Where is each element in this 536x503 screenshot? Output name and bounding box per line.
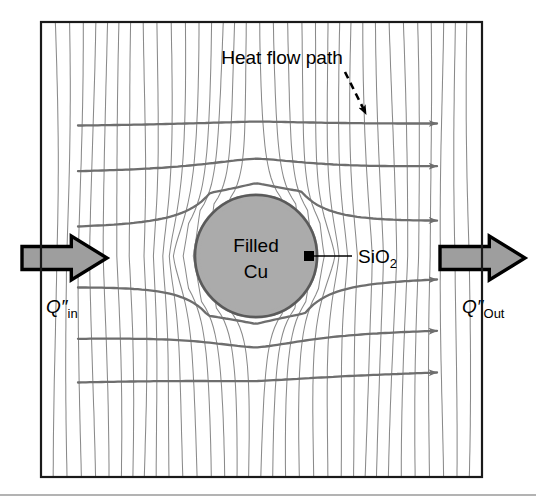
figure-canvas: Filled Cu SiO2 Heat flow path Q″in Q″Out xyxy=(0,0,536,503)
heat-flow-diagram: Filled Cu SiO2 Heat flow path Q″in Q″Out xyxy=(0,0,536,503)
heat-flow-path-label: Heat flow path xyxy=(221,47,342,68)
via-label-line1: Filled xyxy=(233,235,278,256)
via-structure xyxy=(194,194,319,319)
sio2-subscript: 2 xyxy=(390,256,397,271)
filled-cu-core xyxy=(200,200,312,312)
sio2-anchor-marker xyxy=(304,251,314,261)
via-label-line2: Cu xyxy=(244,261,268,282)
qout-subscript: Out xyxy=(484,306,505,321)
qin-symbol: Q″ xyxy=(46,296,69,317)
qin-subscript: in xyxy=(68,306,78,321)
sio2-base: SiO xyxy=(358,246,390,267)
